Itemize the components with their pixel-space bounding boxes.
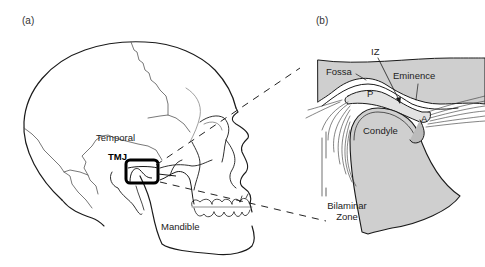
- lower-teeth: [194, 208, 250, 217]
- cranium-outline: [24, 42, 236, 200]
- tmj-anatomy-figure: (a) (b) Temporal TMJ Mandible IZ Fossa E…: [0, 0, 485, 267]
- coronal-suture: [131, 42, 168, 115]
- parietal-suture: [148, 115, 190, 132]
- label-mandible: Mandible: [161, 222, 200, 232]
- orbit-outline: [200, 116, 229, 162]
- skull-drawing: [24, 42, 254, 255]
- mandible-outline: [140, 176, 254, 255]
- tmj-condyle-sketch: [128, 167, 176, 183]
- occipital-outline: [62, 200, 104, 226]
- label-temporal: Temporal: [96, 133, 135, 143]
- figure-drawing: [0, 0, 485, 267]
- label-bilaminar-line2: Zone: [322, 211, 372, 222]
- nasal-aperture: [226, 140, 236, 188]
- label-p: P: [367, 89, 373, 99]
- occipitomastoid-suture: [64, 170, 98, 194]
- label-eminence: Eminence: [393, 71, 435, 81]
- zygomatic-arch: [160, 160, 212, 168]
- label-fossa: Fossa: [326, 67, 352, 77]
- label-bilaminar-zone: Bilaminar Zone: [322, 200, 372, 222]
- sphenoid-line: [186, 88, 200, 142]
- label-bilaminar-line1: Bilaminar: [322, 200, 372, 211]
- orbit-inner: [204, 122, 222, 130]
- upper-teeth: [192, 194, 250, 206]
- ramus-front: [160, 171, 194, 204]
- projection-line-upper: [156, 68, 300, 165]
- bilaminar-zone-fibres: [306, 100, 356, 186]
- panel-b-label: (b): [316, 16, 328, 26]
- label-iz: IZ: [371, 47, 379, 57]
- label-tmj: TMJ: [108, 152, 127, 162]
- label-condyle: Condyle: [363, 126, 398, 136]
- panel-a-label: (a): [22, 16, 34, 26]
- styloid-process: [136, 186, 144, 210]
- label-a: A: [421, 114, 427, 124]
- posterior-vessel-lines: [322, 132, 326, 196]
